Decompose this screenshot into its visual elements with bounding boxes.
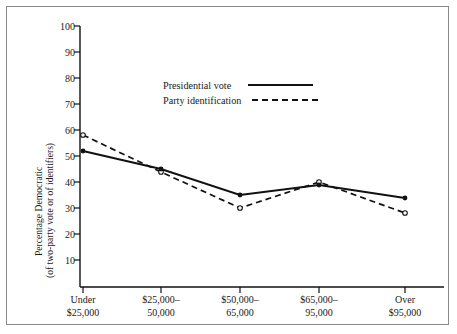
y-axis-ticks (74, 26, 80, 260)
presidential-vote-point (403, 196, 408, 201)
presidential-vote-point (317, 183, 322, 188)
chart-figure: Percentage Democratic (of two-party vote… (0, 0, 457, 334)
party-identification-point (81, 133, 86, 138)
presidential-vote-point (238, 193, 243, 198)
party-identification-point (403, 211, 408, 216)
party-identification-line (83, 135, 405, 213)
presidential-vote-point (81, 149, 86, 154)
presidential-vote-point (159, 167, 164, 172)
series-party-identification (81, 133, 408, 216)
plot-area (0, 0, 457, 334)
party-identification-point (238, 206, 243, 211)
x-axis-ticks (83, 287, 405, 293)
